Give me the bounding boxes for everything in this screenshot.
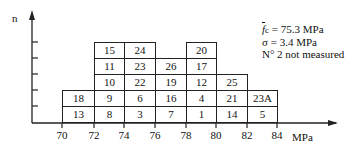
specimen-cell: 19 (155, 74, 187, 91)
x-tick: 78 (176, 129, 196, 141)
specimen-cell: 21 (216, 90, 248, 107)
specimen-cell: 24 (124, 42, 156, 59)
specimen-cell: 5 (247, 106, 278, 123)
x-tick: 72 (84, 129, 104, 141)
sigma-annotation: σ = 3.4 MPa (262, 36, 317, 48)
x-tick: 82 (237, 129, 257, 141)
specimen-cell: 23A (247, 90, 278, 107)
specimen-cell: 25 (216, 74, 248, 91)
specimen-cell: 15 (94, 42, 125, 59)
specimen-cell: 4 (186, 90, 217, 107)
specimen-cell: 6 (124, 90, 156, 107)
x-tick: 84 (267, 129, 287, 141)
specimen-cell: 1 (186, 106, 217, 123)
specimen-cell: 13 (62, 106, 95, 123)
x-tick: 74 (114, 129, 134, 141)
specimen-cell: 7 (155, 106, 187, 123)
specimen-cell: 26 (155, 58, 187, 75)
mean-annotation: fc = 75.3 MPa (262, 23, 324, 36)
specimen-cell: 22 (124, 74, 156, 91)
specimen-cell: 10 (94, 74, 125, 91)
specimen-cell: 17 (186, 58, 217, 75)
specimen-cell: 20 (186, 42, 217, 59)
x-tick: 76 (145, 129, 165, 141)
note-annotation: N° 2 not measured (262, 48, 344, 60)
x-tick: 80 (206, 129, 226, 141)
y-axis-label: n (12, 12, 18, 24)
x-tick: 70 (52, 129, 72, 141)
mean-value: = 75.3 MPa (269, 23, 323, 35)
specimen-cell: 14 (216, 106, 248, 123)
specimen-cell: 11 (94, 58, 125, 75)
specimen-cell: 23 (124, 58, 156, 75)
specimen-cell: 16 (155, 90, 187, 107)
x-axis-unit: MPa (292, 131, 313, 143)
specimen-cell: 3 (124, 106, 156, 123)
specimen-cell: 18 (62, 90, 95, 107)
specimen-cell: 12 (186, 74, 217, 91)
specimen-cell: 9 (94, 90, 125, 107)
specimen-cell: 8 (94, 106, 125, 123)
